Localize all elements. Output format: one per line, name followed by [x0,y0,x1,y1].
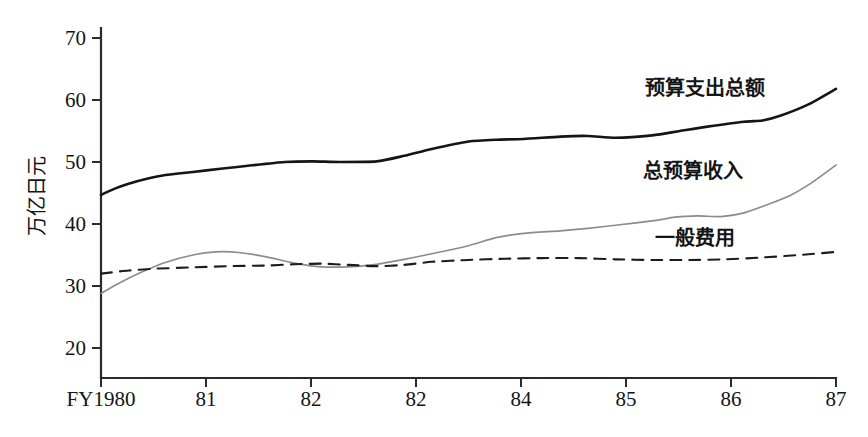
y-axis-title-text: 万亿日元 [26,156,48,236]
x-tick-label: 81 [196,387,217,411]
y-tick-label: 70 [65,26,86,50]
x-tick-label: 85 [616,387,637,411]
y-tick-label: 20 [65,336,86,360]
x-tick-label: 86 [721,387,742,411]
y-axis-title: 万亿日元 [26,156,48,236]
plot-background [0,0,868,437]
y-tick-label: 60 [65,88,86,112]
series-label-1: 预算支出总额 [645,76,765,100]
y-tick-label: 30 [65,274,86,298]
chart-container: 706050403020 FY198081828284858687 预算支出总额… [0,0,868,437]
x-tick-label: 87 [826,387,847,411]
x-tick-label: FY1980 [67,387,136,411]
line-chart: 706050403020 FY198081828284858687 预算支出总额… [0,0,868,437]
x-tick-label: 82 [301,387,322,411]
x-tick-label: 82 [406,387,427,411]
series-label-2: 总预算收入 [643,159,743,183]
y-tick-label: 50 [65,150,86,174]
y-tick-label: 40 [65,212,86,236]
series-label-3: 一般费用 [655,226,735,250]
x-tick-label: 84 [511,387,533,411]
